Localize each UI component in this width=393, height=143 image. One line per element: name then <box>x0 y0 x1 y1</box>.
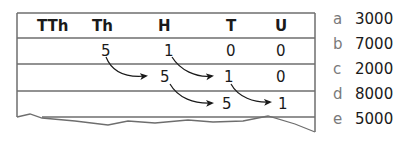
answer-letter: b <box>333 35 343 53</box>
cell-r0-u: 0 <box>276 42 286 60</box>
cell-r1-t: 1 <box>224 68 234 86</box>
place-value-diagram: TTh Th H T U 5 1 0 0 5 1 0 5 1 a 3000 b … <box>0 0 393 143</box>
cell-r0-th: 5 <box>101 42 111 60</box>
answer-c: c 2000 <box>333 60 393 80</box>
header-t: T <box>226 17 236 35</box>
answer-list: a 3000 b 7000 c 2000 d 8000 e 5000 <box>333 10 393 140</box>
answer-letter: d <box>333 85 343 103</box>
answer-value: 3000 <box>355 10 393 28</box>
cell-r1-h: 5 <box>160 68 170 86</box>
cell-r0-t: 0 <box>226 42 236 60</box>
answer-value: 7000 <box>355 35 393 53</box>
answer-value: 2000 <box>355 60 393 78</box>
answer-b: b 7000 <box>333 35 393 55</box>
answer-letter: c <box>333 60 341 78</box>
cell-r2-t: 5 <box>222 95 232 113</box>
answer-value: 5000 <box>355 110 393 128</box>
answer-letter: a <box>333 10 342 28</box>
answer-a: a 3000 <box>333 10 393 30</box>
cell-r2-u: 1 <box>278 95 288 113</box>
answer-letter: e <box>333 110 342 128</box>
header-tth: TTh <box>37 17 69 35</box>
cell-r0-h: 1 <box>164 42 174 60</box>
answer-value: 8000 <box>355 85 393 103</box>
answer-e: e 5000 <box>333 110 393 130</box>
header-th: Th <box>92 17 113 35</box>
answer-d: d 8000 <box>333 85 393 105</box>
header-h: H <box>158 17 171 35</box>
header-u: U <box>275 17 287 35</box>
cell-r1-u: 0 <box>276 68 286 86</box>
